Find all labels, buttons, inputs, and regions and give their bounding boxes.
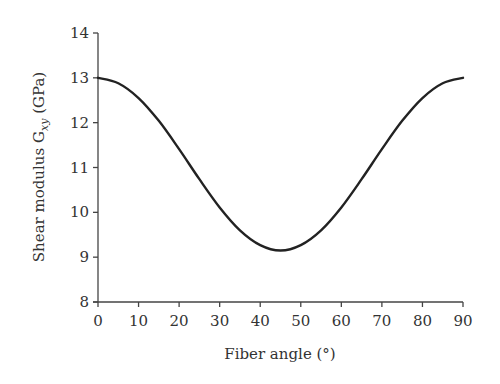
- x-tick-label: 70: [372, 312, 391, 330]
- y-axis-title-main: Shear modulus G: [30, 131, 48, 262]
- y-axis: 891011121314: [70, 24, 98, 311]
- y-tick-label: 12: [70, 114, 89, 132]
- x-tick-label: 50: [291, 312, 310, 330]
- y-axis-title-subscript: xy: [38, 118, 51, 131]
- y-axis-title: Shear modulus Gxy (GPa): [30, 72, 51, 262]
- data-line-gxy: [98, 78, 463, 251]
- y-tick-label: 13: [70, 69, 89, 87]
- x-axis-title: Fiber angle (°): [224, 345, 335, 363]
- x-tick-label: 10: [129, 312, 148, 330]
- y-tick-label: 8: [79, 293, 89, 311]
- x-axis: 0102030405060708090: [93, 302, 473, 330]
- x-tick-label: 40: [251, 312, 270, 330]
- shear-modulus-chart: 891011121314 0102030405060708090 Fiber a…: [0, 0, 500, 384]
- y-tick-label: 9: [79, 248, 89, 266]
- x-tick-label: 60: [332, 312, 351, 330]
- y-tick-label: 10: [70, 203, 89, 221]
- x-tick-label: 30: [210, 312, 229, 330]
- x-tick-label: 90: [453, 312, 472, 330]
- y-tick-label: 14: [70, 24, 89, 42]
- x-tick-label: 20: [170, 312, 189, 330]
- y-axis-title-units: (GPa): [30, 72, 48, 119]
- x-tick-label: 80: [413, 312, 432, 330]
- x-tick-label: 0: [93, 312, 103, 330]
- y-tick-label: 11: [70, 159, 89, 177]
